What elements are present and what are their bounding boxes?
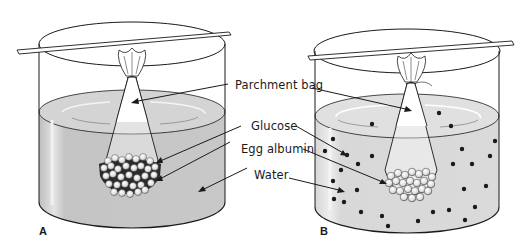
label-egg-albumin: Egg albumin: [241, 142, 314, 156]
panel-label-a: A: [39, 225, 47, 237]
label-parchment-bag: Parchment bag: [235, 78, 323, 92]
label-glucose: Glucose: [251, 119, 298, 133]
beaker-b: [308, 29, 514, 233]
beaker-a: [17, 22, 231, 228]
label-water: Water: [254, 168, 289, 182]
panel-label-b: B: [320, 225, 328, 237]
